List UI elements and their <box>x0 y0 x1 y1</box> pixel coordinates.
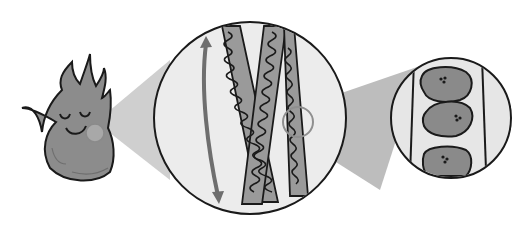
cell-icon <box>423 147 471 176</box>
illustration <box>0 0 517 237</box>
cell-icon <box>421 67 472 102</box>
cell-icon <box>423 102 473 137</box>
flame-icon <box>22 54 114 181</box>
cell-magnifier <box>391 58 511 178</box>
figure <box>0 0 517 237</box>
strand-magnifier <box>154 22 346 214</box>
flame-zoom-ring <box>86 124 104 142</box>
